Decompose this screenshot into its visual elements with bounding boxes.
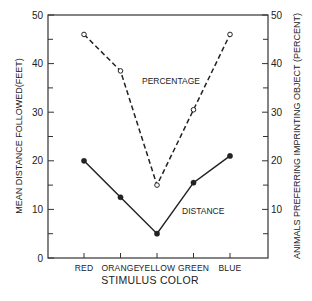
- percentage-point: [118, 69, 123, 74]
- left-tick-label: 10: [32, 204, 44, 215]
- plot-border: [48, 15, 268, 258]
- percentage-point: [82, 32, 87, 37]
- distance-point: [118, 195, 123, 200]
- left-tick-label: 0: [37, 253, 43, 264]
- left-axis-title: MEAN DISTANCE FOLLOWED(FEET): [14, 58, 24, 213]
- right-tick-label: 40: [271, 58, 283, 69]
- line-chart: 01020304050 1020304050 REDORANGEYELLOWGR…: [0, 0, 312, 301]
- percentage-point: [191, 107, 196, 112]
- distance-point: [81, 158, 86, 163]
- right-tick-label: 10: [271, 204, 283, 215]
- distance-point: [191, 180, 196, 185]
- plot-frame: [48, 15, 268, 258]
- x-category-label: BLUE: [218, 263, 241, 273]
- distance-line: [84, 156, 230, 234]
- x-category-label: YELLOW: [139, 263, 176, 273]
- distance-point: [227, 153, 232, 158]
- right-tick-label: 30: [271, 107, 283, 118]
- x-axis: REDORANGEYELLOWGREENBLUE: [75, 253, 242, 273]
- x-category-label: ORANGE: [101, 263, 139, 273]
- x-category-label: GREEN: [178, 263, 209, 273]
- left-tick-label: 20: [32, 155, 44, 166]
- x-category-label: RED: [75, 263, 94, 273]
- left-tick-label: 50: [32, 10, 44, 21]
- distance-annotation: DISTANCE: [182, 206, 225, 216]
- percentage-line: [84, 34, 230, 185]
- left-tick-label: 40: [32, 58, 44, 69]
- percentage-point: [228, 32, 233, 37]
- right-tick-label: 50: [271, 10, 283, 21]
- x-axis-title: STIMULUS COLOR: [101, 274, 199, 286]
- left-y-axis: 01020304050: [32, 10, 54, 264]
- right-tick-label: 20: [271, 155, 283, 166]
- right-axis-title: ANIMALS PREFERRING IMPRINTING OBJECT (PE…: [292, 13, 302, 259]
- percentage-annotation: PERCENTAGE: [142, 76, 200, 86]
- distance-point: [154, 231, 159, 236]
- right-y-axis: 1020304050: [262, 10, 283, 234]
- left-tick-label: 30: [32, 107, 44, 118]
- percentage-point: [155, 183, 160, 188]
